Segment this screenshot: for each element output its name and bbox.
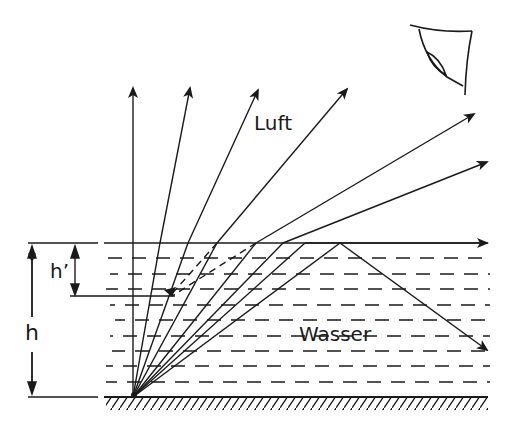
eye-icon <box>410 25 472 95</box>
light-source <box>131 392 137 398</box>
apparent-depth-label: h’ <box>50 261 69 281</box>
air-label: Luft <box>254 113 292 133</box>
air-rays <box>133 88 487 350</box>
water-label: Wasser <box>299 324 371 344</box>
depth-label: h <box>25 322 39 344</box>
water-hatching <box>106 258 490 382</box>
diagram-canvas <box>0 0 518 436</box>
ground-hatching <box>106 398 488 410</box>
refraction-diagram: Luft Wasser h h’ <box>0 0 518 436</box>
